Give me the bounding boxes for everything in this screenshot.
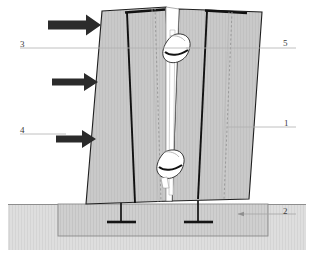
load-arrow-bottom [56,130,96,148]
load-arrow-middle [52,73,98,91]
diagram-canvas: 3 4 5 1 2 [0,0,314,264]
load-arrow-top [48,15,101,36]
label-4: 4 [20,126,25,135]
foundation-block [58,204,268,236]
label-2: 2 [283,207,288,216]
label-1: 1 [284,119,289,128]
label-5: 5 [283,39,288,48]
label-3: 3 [20,40,25,49]
technical-diagram [0,0,314,264]
